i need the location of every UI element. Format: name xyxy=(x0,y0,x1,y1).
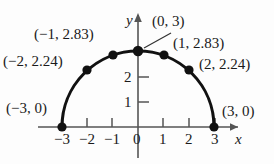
xtick-label-1: 1 xyxy=(159,132,167,147)
ytick-label-2: 2 xyxy=(124,70,132,85)
x-axis-label: x xyxy=(235,132,242,147)
xtick-label-neg2: −2 xyxy=(79,132,95,147)
data-point xyxy=(159,50,168,59)
xtick-label-2: 2 xyxy=(185,132,193,147)
point-label-neg3: (−3, 0) xyxy=(6,101,47,116)
y-axis-label: y xyxy=(126,13,133,28)
ytick-label-1: 1 xyxy=(124,95,132,110)
y-axis-ticks xyxy=(138,77,149,102)
zero-three-leader-line xyxy=(144,33,171,48)
data-point xyxy=(133,46,143,56)
data-point xyxy=(184,65,193,74)
point-label-pos2: (2, 2.24) xyxy=(199,57,250,72)
xtick-label-neg3: −3 xyxy=(54,132,70,147)
xtick-label-3: 3 xyxy=(211,132,219,147)
point-label-pos3: (3, 0) xyxy=(222,104,255,119)
point-label-zero: (0, 3) xyxy=(152,14,185,29)
xtick-label-0: 0 xyxy=(133,132,141,147)
point-label-neg1: (−1, 2.83) xyxy=(34,27,94,42)
xtick-label-neg1: −1 xyxy=(104,132,120,147)
point-label-pos1: (1, 2.83) xyxy=(173,36,224,51)
point-label-neg2: (−2, 2.24) xyxy=(3,54,63,69)
x-axis-arrow-icon xyxy=(230,123,238,131)
data-point xyxy=(108,50,117,59)
y-axis-arrow-icon xyxy=(134,13,142,22)
semicircle-graph-figure: (−3, 0) (−2, 2.24) (−1, 2.83) (0, 3) (1,… xyxy=(0,0,274,164)
data-point xyxy=(82,65,91,74)
